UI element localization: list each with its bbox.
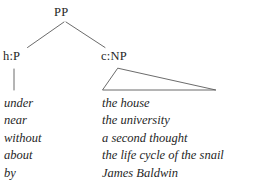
list-item: under: [4, 95, 42, 112]
branch-pp-to-hp: [28, 22, 65, 48]
list-item: the life cycle of the snail: [102, 147, 224, 164]
head-word-list: under near without about by: [4, 95, 42, 182]
node-label-head-p: h:P: [3, 50, 20, 63]
list-item: near: [4, 112, 42, 129]
branch-pp-to-cnp: [66, 22, 105, 48]
list-item: James Baldwin: [102, 165, 224, 182]
triangle-cnp: [103, 69, 216, 91]
list-item: a second thought: [102, 130, 224, 147]
node-label-complement-np: c:NP: [101, 50, 127, 63]
list-item: by: [4, 165, 42, 182]
list-item: the house: [102, 95, 224, 112]
complement-phrase-list: the house the university a second though…: [102, 95, 224, 182]
node-label-pp: PP: [54, 6, 68, 19]
list-item: without: [4, 130, 42, 147]
list-item: about: [4, 147, 42, 164]
tree-diagram-canvas: PP h:P c:NP under near without about by …: [0, 0, 254, 187]
list-item: the university: [102, 112, 224, 129]
